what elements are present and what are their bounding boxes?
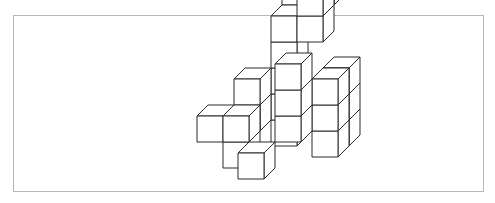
cube-front-face [297,0,323,16]
cube-front-face [312,105,338,131]
cube-front-face [297,16,323,42]
cube-front-face [312,79,338,105]
cube-front-face [238,153,264,179]
cube-front-face [275,64,301,90]
cube-front-face [234,79,260,105]
cube-front-face [223,116,249,142]
cube-side-face [334,0,345,5]
cube-front-face [275,90,301,116]
cube-front-face [197,116,223,142]
cube-front-face [275,116,301,142]
cube-front-face [271,16,297,42]
cube-front-face [312,131,338,157]
cube-structure-diagram [0,0,495,203]
